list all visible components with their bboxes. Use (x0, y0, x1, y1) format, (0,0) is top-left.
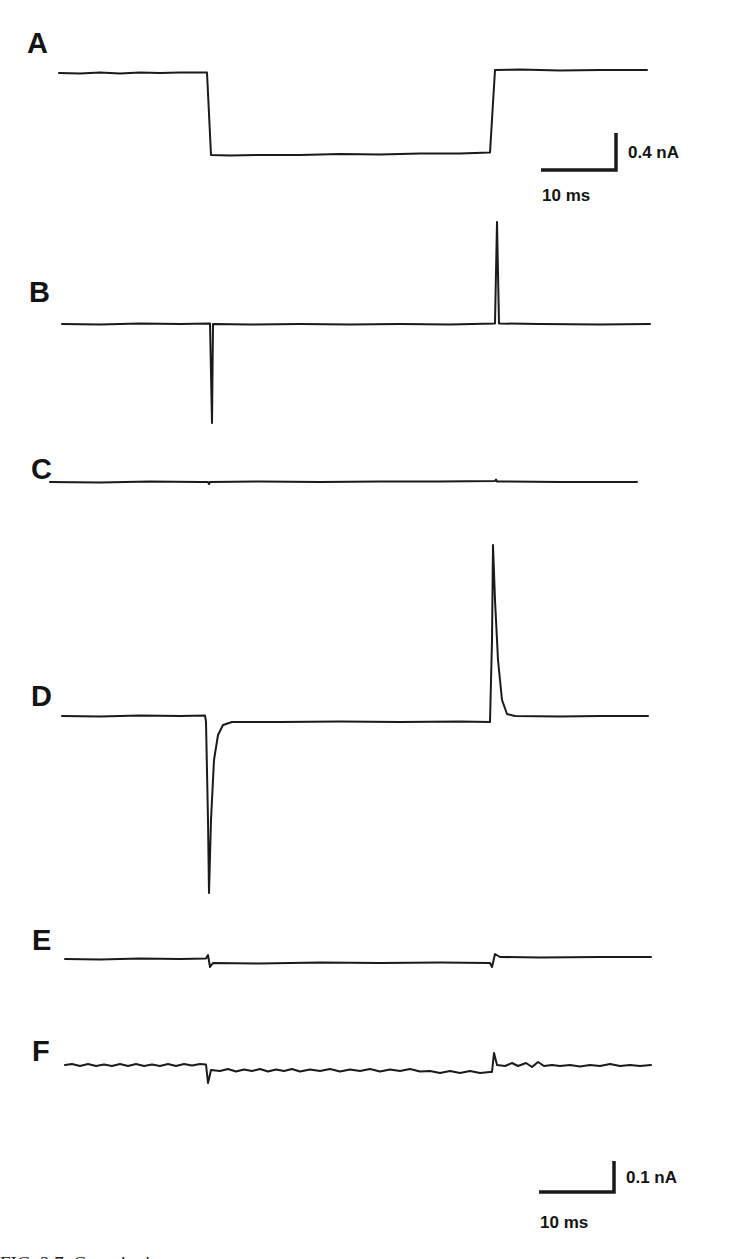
scale-bar-bottom: 0.1 nA 10 ms (539, 1161, 677, 1232)
panel-label-d: D (31, 680, 52, 712)
trace-d (62, 545, 648, 893)
scale-bar-top-current-label: 0.4 nA (628, 143, 679, 162)
scale-bar-top-lines (541, 133, 616, 170)
panel-label-a: A (27, 27, 48, 59)
panel-label-b: B (29, 276, 50, 308)
figure: A B C D E F 0.4 nA 10 ms 0.1 nA 10 ms (0, 0, 733, 1259)
trace-c (50, 480, 637, 485)
scale-bar-bottom-current-label: 0.1 nA (626, 1168, 677, 1187)
scale-bar-bottom-time-label: 10 ms (540, 1213, 588, 1232)
trace-f (65, 1053, 651, 1083)
scale-bar-bottom-lines (539, 1161, 614, 1192)
trace-e (65, 954, 651, 967)
figure-caption-cutoff: FIG. 2.7. Capacitative currents... (0, 1252, 733, 1259)
scale-bar-top: 0.4 nA 10 ms (541, 133, 679, 205)
panel-label-f: F (32, 1035, 50, 1067)
trace-b (62, 222, 650, 423)
scale-bar-top-time-label: 10 ms (542, 186, 590, 205)
panel-label-e: E (32, 924, 51, 956)
trace-a (59, 70, 647, 156)
panel-label-c: C (31, 453, 52, 485)
